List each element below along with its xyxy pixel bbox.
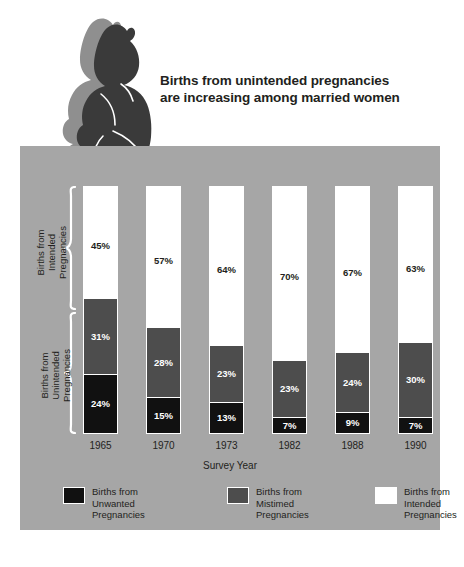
- bar-segment-value: 45%: [91, 241, 110, 251]
- bar-segment-unwanted: 9%: [335, 412, 370, 434]
- bar-segment-unwanted: 15%: [146, 397, 181, 434]
- bar-column: 45%31%24%: [83, 186, 118, 434]
- bar-segment-value: 23%: [217, 369, 236, 379]
- bar-column: 57%28%15%: [146, 186, 181, 434]
- x-axis-tick-1970: 1970: [138, 440, 190, 451]
- legend-swatch-intended: [375, 487, 397, 504]
- bar-segment-value: 7%: [409, 421, 423, 431]
- bar-segment-value: 67%: [343, 268, 362, 278]
- bar-segment-value: 70%: [280, 272, 299, 282]
- x-axis-tick-1988: 1988: [327, 440, 379, 451]
- axis-label-unintended: Births from Unintended Pregnancies: [39, 316, 72, 436]
- chart-panel: Births from Intended Pregnancies Births …: [20, 146, 440, 530]
- x-axis-tick-1973: 1973: [201, 440, 253, 451]
- plot-area: 45%31%24%57%28%15%64%23%13%70%23%7%67%24…: [83, 186, 433, 434]
- bar-segment-value: 30%: [406, 375, 425, 385]
- x-axis-title: Survey Year: [20, 460, 440, 471]
- bar-segment-intended: 70%: [272, 186, 307, 360]
- bar-column: 70%23%7%: [272, 186, 307, 434]
- bar-segment-intended: 64%: [209, 186, 244, 345]
- bar-segment-intended: 63%: [398, 186, 433, 342]
- legend-item-mistimed: Births from Mistimed Pregnancies: [227, 486, 309, 521]
- bar-segment-value: 57%: [154, 256, 173, 266]
- bar-segment-value: 15%: [154, 411, 173, 421]
- bar-segment-unwanted: 13%: [209, 402, 244, 434]
- bar-column: 63%30%7%: [398, 186, 433, 434]
- legend-label-intended: Births from Intended Pregnancies: [404, 486, 457, 521]
- bar-segment-intended: 57%: [146, 186, 181, 327]
- legend-swatch-unwanted: [63, 487, 85, 504]
- x-axis-tick-1990: 1990: [390, 440, 442, 451]
- bar-segment-unwanted: 7%: [398, 417, 433, 434]
- bar-segment-value: 63%: [406, 264, 425, 274]
- legend-label-unwanted: Births from Unwanted Pregnancies: [92, 486, 145, 521]
- page-title: Births from unintended pregnancies are i…: [160, 73, 410, 106]
- bar-column: 67%24%9%: [335, 186, 370, 434]
- x-axis-tick-1982: 1982: [264, 440, 316, 451]
- bar-segment-intended: 67%: [335, 186, 370, 352]
- bar-segment-value: 7%: [283, 421, 297, 431]
- legend-item-unwanted: Births from Unwanted Pregnancies: [63, 486, 145, 521]
- bar-segment-mistimed: 24%: [335, 352, 370, 412]
- bar-segment-value: 24%: [91, 399, 110, 409]
- bar-segment-mistimed: 23%: [272, 360, 307, 417]
- bar-segment-value: 31%: [91, 332, 110, 342]
- axis-label-intended: Births from Intended Pregnancies: [35, 193, 68, 313]
- bar-segment-intended: 45%: [83, 186, 118, 298]
- bar-segment-value: 13%: [217, 413, 236, 423]
- legend-label-mistimed: Births from Mistimed Pregnancies: [256, 486, 309, 521]
- bar-segment-value: 9%: [346, 418, 360, 428]
- legend-item-intended: Births from Intended Pregnancies: [375, 486, 457, 521]
- bar-segment-mistimed: 31%: [83, 298, 118, 375]
- bar-segment-unwanted: 24%: [83, 374, 118, 434]
- bar-segment-unwanted: 7%: [272, 417, 307, 434]
- bar-segment-value: 64%: [217, 265, 236, 275]
- chart-legend: Births from Unwanted PregnanciesBirths f…: [20, 486, 440, 530]
- bar-segment-value: 24%: [343, 378, 362, 388]
- bar-segment-mistimed: 23%: [209, 345, 244, 402]
- bar-segment-value: 28%: [154, 358, 173, 368]
- bar-segment-mistimed: 30%: [398, 342, 433, 416]
- bar-segment-mistimed: 28%: [146, 327, 181, 396]
- bar-column: 64%23%13%: [209, 186, 244, 434]
- x-axis-tick-1965: 1965: [75, 440, 127, 451]
- bar-segment-value: 23%: [280, 384, 299, 394]
- legend-swatch-mistimed: [227, 487, 249, 504]
